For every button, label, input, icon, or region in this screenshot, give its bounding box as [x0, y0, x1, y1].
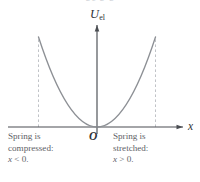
- y-axis-label-subscript: el: [99, 13, 104, 22]
- caption-compressed-variable: x: [8, 154, 12, 164]
- caption-compressed: Spring is compressed: x < 0.: [8, 131, 53, 166]
- caption-stretched-line2: stretched:: [113, 143, 148, 155]
- caption-stretched-relation: > 0.: [119, 154, 133, 164]
- caption-stretched-line1: Spring is: [113, 131, 148, 143]
- origin-label: O: [89, 131, 97, 143]
- elastic-potential-energy-figure: Ue U U Uel x O Spring is compressed: x <…: [0, 0, 200, 182]
- caption-stretched-line3: x > 0.: [113, 154, 148, 166]
- x-axis-arrowhead: [177, 125, 184, 130]
- y-axis-label-symbol: U: [90, 7, 99, 21]
- caption-compressed-relation: < 0.: [14, 154, 28, 164]
- caption-compressed-line1: Spring is: [8, 131, 53, 143]
- caption-stretched: Spring is stretched: x > 0.: [113, 131, 148, 166]
- caption-compressed-line2: compressed:: [8, 143, 53, 155]
- y-axis-arrowhead: [95, 25, 100, 32]
- caption-stretched-variable: x: [113, 154, 117, 164]
- x-axis-label: x: [188, 121, 193, 133]
- caption-compressed-line3: x < 0.: [8, 154, 53, 166]
- y-axis-label: Uel: [90, 8, 104, 21]
